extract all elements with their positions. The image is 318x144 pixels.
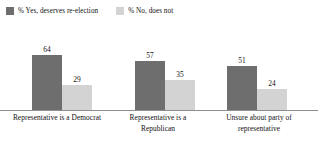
bar-wrap-democrat-yes: 64 [32,24,62,110]
bar-democrat-no [62,85,92,110]
category-label-democrat: Representative is a Democrat [2,113,112,124]
legend-label-no: % No, does not [128,7,173,15]
bar-value-democrat-yes: 64 [43,45,51,54]
bar-value-unsure-yes: 51 [238,56,246,65]
category-label-republican: Representative is a Republican [113,113,203,134]
bar-wrap-republican-yes: 57 [135,24,165,110]
bar-chart: % Yes, deserves re-election % No, does n… [0,0,318,144]
legend-swatch-yes [6,7,14,15]
bar-wrap-republican-no: 35 [165,24,195,110]
legend-label-yes: % Yes, deserves re-election [18,7,98,15]
bar-republican-yes [135,61,165,110]
bar-republican-no [165,80,195,110]
category-label-unsure: Unsure about party of representative [212,113,306,134]
bar-democrat-yes [32,55,62,110]
category-labels: Representative is a Democrat Representat… [0,113,318,143]
legend-item-no: % No, does not [116,7,173,15]
bar-value-republican-yes: 57 [146,51,154,60]
bar-value-unsure-no: 24 [268,79,276,88]
bar-wrap-unsure-no: 24 [257,24,287,110]
legend-item-yes: % Yes, deserves re-election [6,7,98,15]
bar-wrap-unsure-yes: 51 [227,24,257,110]
bar-unsure-yes [227,66,257,110]
bar-value-democrat-no: 29 [73,75,81,84]
bar-wrap-democrat-no: 29 [62,24,92,110]
chart-legend: % Yes, deserves re-election % No, does n… [6,7,173,19]
plot-area: 64 29 57 35 [0,24,318,110]
bar-unsure-no [257,89,287,110]
axis-baseline [0,110,318,111]
bar-value-republican-no: 35 [176,70,184,79]
legend-swatch-no [116,7,124,15]
